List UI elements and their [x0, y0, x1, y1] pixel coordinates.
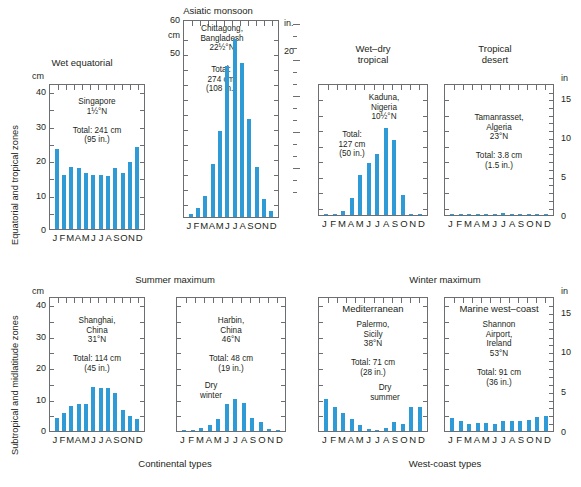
group-heading-winter-maximum: Winter maximum: [330, 274, 560, 285]
month-tick-label: F: [59, 434, 67, 445]
bar-m-4: [84, 173, 88, 229]
bar-a-3: [350, 198, 354, 215]
month-tick-label: J: [373, 434, 382, 445]
panel-summer-max-shanghai: cm 40 30 20 10 0: [18, 292, 146, 467]
bar-j-5: [493, 214, 497, 215]
panel-title-asiatic-monsoon: Asiatic monsoon: [168, 6, 268, 17]
bar-s-8: [247, 119, 251, 217]
month-tick-label: D: [135, 434, 143, 445]
bar-a-7: [384, 128, 388, 215]
month-tick-label: F: [329, 218, 338, 229]
bar-o-9: [527, 214, 531, 215]
month-tick-label: S: [517, 434, 526, 445]
bar-f-1: [196, 208, 200, 217]
bar-m-4: [84, 404, 88, 431]
month-tick-label: N: [262, 220, 270, 231]
bar-a-7: [510, 214, 514, 215]
bar-m-2: [69, 167, 73, 229]
bar-n-10: [128, 416, 132, 431]
yaxis-shanghai: 40 30 20 10 0: [18, 297, 46, 432]
month-tick-label: A: [105, 232, 113, 243]
month-tick-label: A: [239, 220, 247, 231]
bar-f-1: [333, 214, 337, 215]
bar-n-10: [262, 199, 266, 217]
bar-d-11: [276, 430, 280, 431]
month-tick-label: A: [382, 218, 391, 229]
bar-n-10: [535, 214, 539, 215]
bar-j-0: [324, 399, 328, 432]
month-tick-label: D: [417, 218, 426, 229]
bar-j-5: [493, 424, 497, 431]
bar-d-11: [418, 407, 422, 431]
bar-d-11: [135, 147, 139, 229]
month-tick-label: D: [269, 220, 277, 231]
month-tick-label: J: [499, 434, 508, 445]
month-tick-label: O: [399, 218, 408, 229]
bar-a-7: [242, 403, 246, 431]
bar-a-3: [476, 214, 480, 215]
month-tick-label: N: [408, 434, 417, 445]
panel-winter-max-shannon: Marine west–coast Shannon Airport, Irela…: [440, 292, 580, 467]
month-tick-label: A: [208, 220, 216, 231]
month-tick-label: S: [391, 218, 400, 229]
month-tick-label: O: [399, 434, 408, 445]
group-caption-west-coast-types: West-coast types: [330, 458, 560, 469]
bar-d-11: [135, 419, 139, 431]
bar-m-2: [467, 214, 471, 215]
month-tick-label: S: [391, 434, 400, 445]
month-tick-label: J: [446, 218, 455, 229]
month-tick-label: A: [382, 434, 391, 445]
group-caption-continental-types: Continental types: [60, 458, 290, 469]
bar-m-2: [467, 424, 471, 431]
bar-m-4: [484, 423, 488, 431]
bar-f-1: [62, 413, 66, 431]
plot-wet-equatorial: Singapore 1½°N Total: 241 cm (95 in.): [49, 84, 145, 230]
bar-j-5: [225, 404, 229, 431]
month-tick-label: S: [249, 434, 258, 445]
bar-a-7: [384, 428, 388, 431]
month-tick-label: J: [373, 218, 382, 229]
bar-a-7: [240, 63, 244, 217]
month-tick-label: M: [82, 232, 90, 243]
month-axis-palermo: JFMAMJJASOND: [318, 434, 428, 445]
month-axis-wet-equatorial: JFMAMJJASOND: [49, 232, 145, 243]
bar-a-3: [211, 164, 215, 217]
month-tick-label: J: [51, 434, 59, 445]
bar-o-9: [401, 195, 405, 215]
bar-f-1: [191, 430, 195, 431]
month-axis-shannon: JFMAMJJASOND: [444, 434, 554, 445]
month-tick-label: S: [113, 232, 121, 243]
month-tick-label: O: [525, 434, 534, 445]
unit-cm-wet-equatorial: cm: [32, 71, 44, 81]
bar-s-8: [518, 214, 522, 215]
plot-asiatic-monsoon: Chittagong, Bangladesh 22½°N Total: 274 …: [183, 20, 279, 218]
bar-j-0: [450, 418, 454, 431]
bar-j-6: [233, 399, 237, 432]
bars-harbin: [177, 298, 285, 431]
bar-m-2: [199, 428, 203, 431]
month-tick-label: D: [135, 232, 143, 243]
month-tick-label: A: [105, 434, 113, 445]
month-tick-label: M: [200, 220, 208, 231]
bar-d-11: [544, 416, 548, 431]
month-tick-label: O: [525, 218, 534, 229]
month-tick-label: J: [364, 434, 373, 445]
bar-s-8: [518, 421, 522, 431]
panel-wet-equatorial: Wet equatorial cm 40 30 20 10 0: [18, 58, 146, 250]
bar-d-11: [418, 214, 422, 215]
bar-j-5: [225, 66, 229, 217]
bar-a-3: [208, 425, 212, 431]
bar-o-9: [401, 424, 405, 431]
unit-cm-shanghai: cm: [32, 286, 44, 296]
month-tick-label: J: [446, 434, 455, 445]
bar-j-0: [450, 214, 454, 215]
month-tick-label: N: [128, 232, 136, 243]
month-tick-label: D: [275, 434, 284, 445]
panel-wet-dry-tropical: Wet–dry tropical Kaduna, Nigeria 10½°N T…: [310, 44, 436, 250]
panel-asiatic-monsoon: Asiatic monsoon 60 cm 50: [148, 6, 296, 250]
inch-ruler-ticks: [293, 20, 298, 212]
bar-d-11: [544, 214, 548, 215]
bar-j-0: [55, 418, 59, 431]
bars-shanghai: [50, 298, 144, 431]
bars-wet-equatorial: [50, 85, 144, 229]
